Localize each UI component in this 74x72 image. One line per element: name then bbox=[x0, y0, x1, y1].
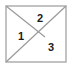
region-label-2: 2 bbox=[37, 12, 43, 24]
region-label-1: 1 bbox=[18, 30, 24, 42]
figure-container: 1 2 3 bbox=[0, 0, 74, 72]
partitioned-square-figure: 1 2 3 bbox=[0, 0, 74, 72]
region-label-3: 3 bbox=[48, 41, 54, 53]
